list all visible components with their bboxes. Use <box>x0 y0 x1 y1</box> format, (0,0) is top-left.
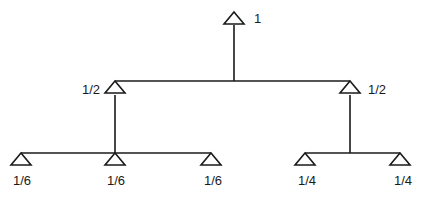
leaf-label: 1/6 <box>13 174 31 187</box>
leaf-label: 1/4 <box>394 174 412 187</box>
node-label: 1/2 <box>368 83 386 96</box>
leaf-label: 1/4 <box>298 174 316 187</box>
leaf-triangle-icon <box>390 153 410 165</box>
leaf-label: 1/6 <box>107 174 125 187</box>
leaf-triangle-icon <box>105 153 125 165</box>
tree-diagram <box>0 0 422 197</box>
leaf-triangle-icon <box>295 153 315 165</box>
node-label: 1/2 <box>82 83 100 96</box>
node-triangle-icon <box>340 81 360 93</box>
root-label: 1 <box>254 12 261 25</box>
node-triangle-icon <box>105 81 125 93</box>
leaf-label: 1/6 <box>204 174 222 187</box>
root-node-triangle-icon <box>224 12 244 24</box>
leaf-triangle-icon <box>201 153 221 165</box>
leaf-triangle-icon <box>11 153 31 165</box>
